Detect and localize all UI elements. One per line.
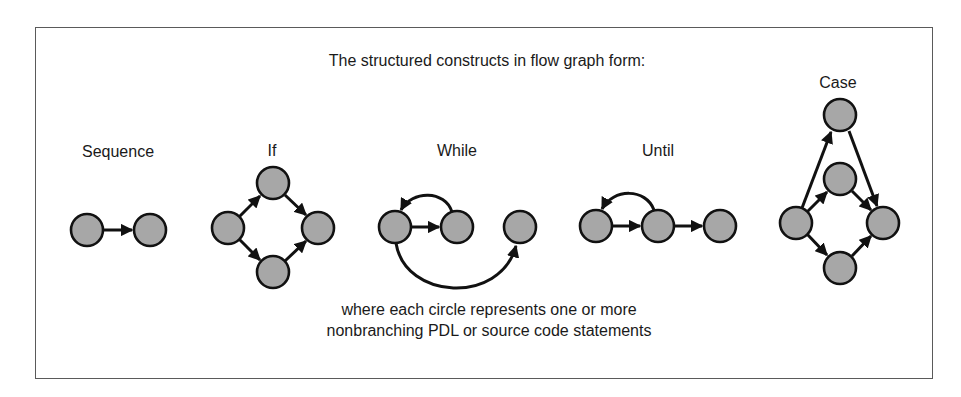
node-circle (71, 214, 103, 246)
node-circle (824, 163, 856, 195)
node-circle (212, 212, 244, 244)
node-circle (379, 211, 411, 243)
node-circle (504, 211, 536, 243)
node-circle (704, 210, 736, 242)
label-sequence: Sequence (82, 143, 154, 160)
label-while: While (437, 142, 477, 159)
flow-graph-diagram: The structured constructs in flow graph … (0, 0, 961, 397)
node-circle (780, 207, 812, 239)
node-circle (824, 252, 856, 284)
case-graph (780, 99, 899, 284)
node-circle (257, 167, 289, 199)
node-circle (441, 211, 473, 243)
diagram-title: The structured constructs in flow graph … (329, 52, 646, 69)
node-circle (824, 99, 856, 131)
node-circle (642, 210, 674, 242)
node-circle (580, 210, 612, 242)
sequence-graph (71, 214, 166, 246)
label-if: If (268, 142, 277, 159)
label-case: Case (819, 74, 856, 91)
node-circle (134, 214, 166, 246)
caption-line-1: where each circle represents one or more (340, 301, 636, 318)
while-graph (379, 195, 536, 288)
caption-line-2: nonbranching PDL or source code statemen… (327, 322, 652, 339)
node-circle (257, 256, 289, 288)
label-until: Until (642, 142, 674, 159)
node-circle (867, 207, 899, 239)
until-graph (580, 193, 736, 242)
if-graph (212, 167, 334, 288)
node-circle (302, 212, 334, 244)
